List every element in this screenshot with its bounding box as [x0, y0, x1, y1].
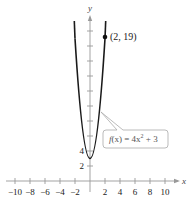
function-graph: −10 −8 −6 −4 −2 2 4 6 8 10 x 2 4 y: [0, 0, 187, 202]
x-axis-label: x: [181, 176, 186, 186]
x-tick-label: 6: [133, 187, 138, 197]
y-tick-label: 2: [80, 161, 85, 171]
y-axis-label: y: [87, 3, 92, 13]
x-tick-label: −4: [55, 187, 65, 197]
x-tick-label: 4: [118, 187, 123, 197]
x-axis-arrow-icon: [174, 179, 180, 183]
x-tick-label: −6: [40, 187, 50, 197]
x-tick-label: 8: [148, 187, 153, 197]
y-axis-arrow-icon: [88, 15, 92, 21]
point-label: (2, 19): [110, 31, 137, 43]
x-tick-label: −8: [25, 187, 35, 197]
x-tick-label: −10: [8, 187, 23, 197]
callout-label: f(x) = 4x2 + 3: [109, 133, 158, 144]
point-marker: [103, 35, 108, 40]
parabola-curve-extension-left: [74, 21, 75, 39]
x-tick-label: 10: [161, 187, 171, 197]
x-axis: −10 −8 −6 −4 −2 2 4 6 8 10 x: [6, 176, 186, 197]
y-axis: 2 4 y: [80, 3, 94, 192]
x-tick-label: 2: [103, 187, 108, 197]
y-tick-label: 4: [80, 146, 85, 156]
function-callout: f(x) = 4x2 + 3: [101, 112, 168, 148]
x-tick-label: −2: [70, 187, 80, 197]
